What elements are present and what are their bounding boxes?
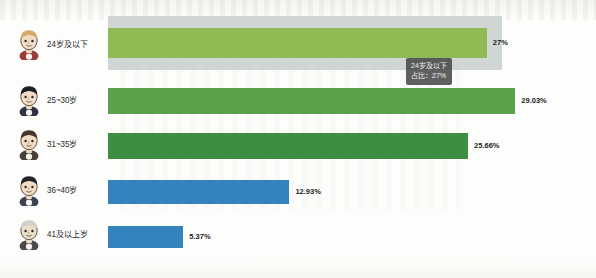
avatar-middle-aged-man-icon bbox=[14, 172, 44, 206]
tooltip-category-line: 24岁及以下 bbox=[411, 61, 447, 71]
bar-tooltip: 24岁及以下占比：27% bbox=[406, 58, 452, 85]
chart-plot-area: 24岁及以下27%25~30岁29.03%31~35岁25.66%36~40岁1… bbox=[0, 0, 596, 278]
bar-1[interactable] bbox=[108, 28, 487, 58]
bar-5[interactable] bbox=[108, 226, 183, 248]
bar-value-label-4: 12.93% bbox=[295, 187, 320, 196]
avatar-man-suit-icon bbox=[14, 82, 44, 116]
category-label-text: 24岁及以下 bbox=[47, 37, 88, 49]
category-label-text: 41及以上岁 bbox=[47, 227, 88, 239]
bar-value-label-1: 27% bbox=[493, 38, 508, 47]
avatar-woman-longhair-icon bbox=[14, 126, 44, 160]
category-axis-label-3[interactable]: 31~35岁 bbox=[14, 130, 77, 156]
bar-chart-screenshot: 24岁及以下27%25~30岁29.03%31~35岁25.66%36~40岁1… bbox=[0, 0, 596, 278]
category-label-text: 25~30岁 bbox=[47, 93, 77, 105]
bar-4[interactable] bbox=[108, 180, 289, 204]
avatar-elderly-man-icon bbox=[14, 216, 44, 250]
bar-2[interactable] bbox=[108, 88, 515, 114]
bar-3[interactable] bbox=[108, 133, 468, 159]
category-label-text: 31~35岁 bbox=[47, 137, 77, 149]
bar-value-label-5: 5.37% bbox=[189, 232, 210, 241]
bar-value-label-3: 25.66% bbox=[474, 141, 499, 150]
category-axis-label-4[interactable]: 36~40岁 bbox=[14, 177, 77, 201]
tooltip-value-line: 占比：27% bbox=[411, 71, 447, 81]
avatar-young-adult-icon bbox=[14, 26, 44, 60]
category-axis-label-5[interactable]: 41及以上岁 bbox=[14, 222, 88, 244]
bar-value-label-2: 29.03% bbox=[521, 96, 546, 105]
category-axis-label-1[interactable]: 24岁及以下 bbox=[14, 28, 88, 58]
category-label-text: 36~40岁 bbox=[47, 183, 77, 195]
category-axis-label-2[interactable]: 25~30岁 bbox=[14, 86, 77, 112]
